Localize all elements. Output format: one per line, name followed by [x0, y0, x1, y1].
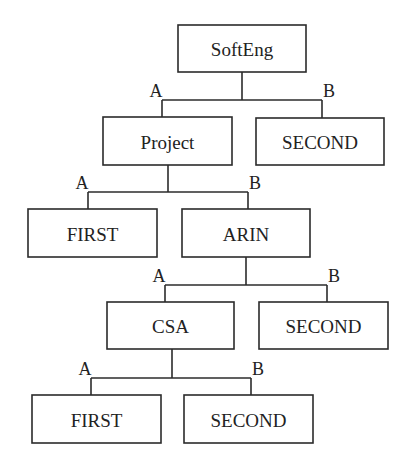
node-first2: FIRST — [32, 395, 161, 443]
branch-label-b: B — [328, 266, 340, 286]
branch-label-a: A — [150, 81, 163, 101]
node-label: SECOND — [285, 316, 361, 337]
node-label: CSA — [152, 316, 189, 337]
node-second3: SECOND — [184, 395, 313, 443]
branch-label-a: A — [76, 173, 89, 193]
branch-label-b: B — [252, 359, 264, 379]
branch-label-b: B — [249, 173, 261, 193]
split-softeng — [162, 72, 322, 118]
node-first1: FIRST — [28, 209, 157, 257]
node-label: FIRST — [71, 410, 123, 431]
node-project: Project — [103, 117, 232, 165]
node-label: Project — [141, 132, 196, 153]
split-arin — [165, 257, 327, 302]
node-label: ARIN — [223, 224, 270, 245]
node-softeng: SoftEng — [178, 25, 306, 72]
branch-label-b: B — [323, 81, 335, 101]
node-second2: SECOND — [259, 302, 388, 349]
node-label: SECOND — [210, 410, 286, 431]
split-csa — [91, 349, 251, 395]
node-label: FIRST — [67, 224, 119, 245]
decision-tree-diagram: SoftEngProjectSECONDFIRSTARINCSASECONDFI… — [0, 0, 408, 463]
node-csa: CSA — [107, 302, 234, 349]
node-label: SoftEng — [211, 39, 274, 60]
branch-label-a: A — [153, 266, 166, 286]
branch-label-a: A — [79, 359, 92, 379]
node-arin: ARIN — [182, 209, 310, 257]
node-second1: SECOND — [256, 118, 384, 165]
split-project — [88, 165, 248, 209]
node-label: SECOND — [282, 132, 358, 153]
